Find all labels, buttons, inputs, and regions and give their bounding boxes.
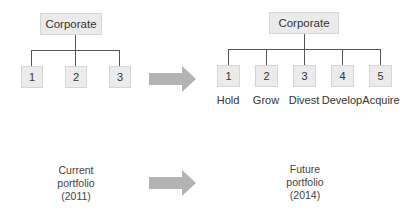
right-corporate-label: Corporate	[278, 17, 329, 29]
right-root-connector	[304, 34, 305, 50]
right-child-number-5: 5	[377, 70, 383, 82]
right-child-label-hold: Hold	[208, 94, 248, 106]
left-child-box-2: 2	[65, 66, 87, 88]
left-root-connector	[75, 35, 76, 51]
bottom-arrow-icon	[149, 170, 197, 196]
right-child-connector-1	[228, 49, 229, 65]
right-child-box-2: 2	[255, 65, 278, 87]
left-corporate-label: Corporate	[45, 18, 96, 30]
right-child-number-1: 1	[225, 70, 231, 82]
right-child-number-3: 3	[301, 70, 307, 82]
right-child-box-1: 1	[217, 65, 240, 87]
right-child-box-5: 5	[369, 65, 392, 87]
left-child-number-1: 1	[29, 71, 35, 83]
left-child-number-2: 2	[73, 71, 79, 83]
left-child-connector-1	[31, 50, 32, 66]
right-child-connector-4	[342, 49, 343, 65]
right-child-box-3: 3	[293, 65, 316, 87]
future-portfolio-caption: Future portfolio (2014)	[275, 163, 335, 202]
left-child-connector-3	[119, 50, 120, 66]
right-child-label-acquire: Acquire	[357, 94, 405, 106]
left-child-box-3: 3	[109, 66, 131, 88]
left-child-box-1: 1	[21, 66, 43, 88]
right-child-box-4: 4	[331, 65, 354, 87]
right-child-number-4: 4	[339, 70, 345, 82]
right-corporate-box: Corporate	[269, 12, 339, 34]
top-arrow-icon	[149, 66, 197, 92]
right-child-connector-5	[380, 49, 381, 65]
left-child-connector-2	[75, 50, 76, 66]
left-corporate-box: Corporate	[40, 13, 102, 35]
right-child-connector-2	[266, 49, 267, 65]
right-child-label-grow: Grow	[246, 94, 286, 106]
right-child-connector-3	[304, 49, 305, 65]
right-child-number-2: 2	[263, 70, 269, 82]
left-child-number-3: 3	[117, 71, 123, 83]
current-portfolio-caption: Current portfolio (2011)	[46, 164, 106, 203]
